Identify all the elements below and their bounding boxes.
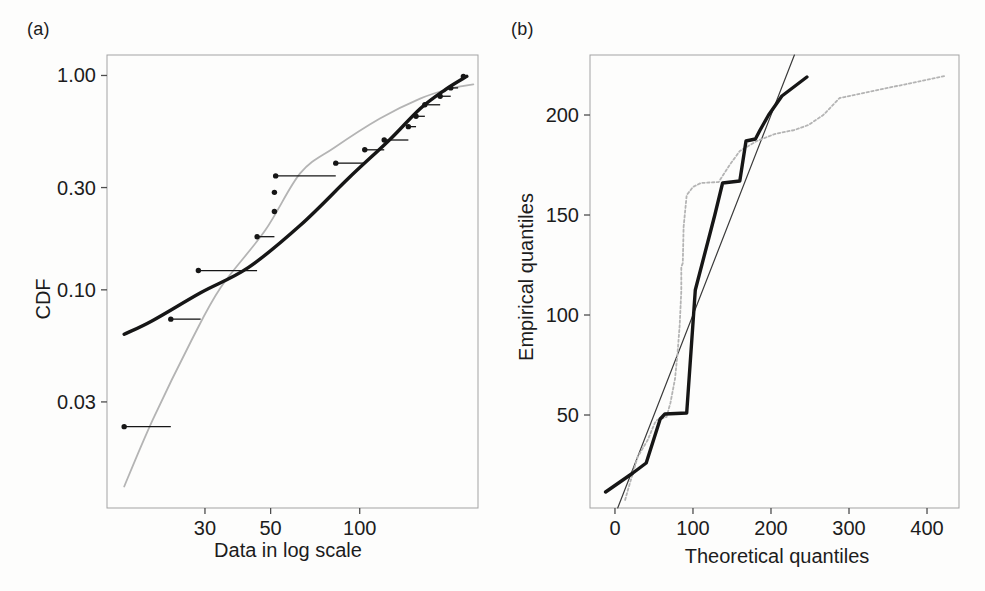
empirical-point (448, 85, 453, 90)
panel-a-x-axis-title: Data in log scale (214, 539, 362, 562)
y-tick-label: 50 (557, 404, 579, 426)
empirical-point (362, 147, 367, 152)
empirical-point (272, 190, 277, 195)
empirical-point (121, 424, 126, 429)
x-tick-label: 50 (259, 517, 281, 539)
y-tick-label: 150 (546, 204, 579, 226)
empirical-point (273, 173, 278, 178)
y-tick-label: 0.30 (57, 177, 96, 199)
x-tick-label: 400 (910, 517, 943, 539)
figure: 30501001.000.300.100.0301002003004005010… (0, 0, 985, 591)
panel-b-identity-line (618, 55, 795, 508)
panel-a-y-axis-title: CDF (32, 278, 55, 319)
empirical-point (413, 114, 418, 119)
y-tick-label: 0.10 (57, 279, 96, 301)
y-tick-label: 1.00 (57, 64, 96, 86)
panel-b: 010020030040050100150200 (546, 55, 959, 539)
panel-a-label: (a) (27, 19, 50, 40)
panel-b-label: (b) (511, 19, 534, 40)
y-tick-label: 200 (546, 104, 579, 126)
x-tick-label: 100 (343, 517, 376, 539)
x-tick-label: 0 (609, 517, 620, 539)
panel-b-gray-qq-line (625, 76, 945, 500)
empirical-point (168, 316, 173, 321)
empirical-point (406, 124, 411, 129)
empirical-point (333, 160, 338, 165)
y-tick-label: 100 (546, 304, 579, 326)
x-tick-label: 30 (194, 517, 216, 539)
panel-a-frame (107, 55, 478, 508)
panel-b-x-axis-title: Theoretical quantiles (685, 545, 870, 568)
empirical-point (196, 268, 201, 273)
panel-a-gray-fitted-cdf (124, 84, 473, 486)
x-tick-label: 100 (676, 517, 709, 539)
empirical-point (254, 234, 259, 239)
empirical-point (382, 137, 387, 142)
empirical-point (272, 209, 277, 214)
y-tick-label: 0.03 (57, 391, 96, 413)
empirical-point (437, 94, 442, 99)
empirical-point (461, 74, 466, 79)
panel-b-black-qq-line (606, 77, 807, 492)
empirical-point (422, 102, 427, 107)
panel-b-frame (590, 55, 959, 508)
chart-canvas: 30501001.000.300.100.0301002003004005010… (0, 0, 985, 591)
x-tick-label: 200 (754, 517, 787, 539)
x-tick-label: 300 (832, 517, 865, 539)
panel-a: 30501001.000.300.100.03 (57, 55, 478, 539)
panel-b-y-axis-title: Empirical quantiles (515, 193, 538, 361)
